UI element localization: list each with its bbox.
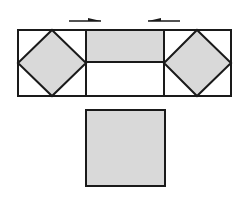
diagram-canvas <box>0 0 247 201</box>
right-diamond <box>164 30 231 96</box>
left-diamond <box>18 30 86 96</box>
middle-shaded-cell <box>86 30 164 62</box>
bottom-square <box>86 110 165 186</box>
arrow-right-icon <box>69 18 101 21</box>
arrow-left-icon <box>148 18 180 21</box>
